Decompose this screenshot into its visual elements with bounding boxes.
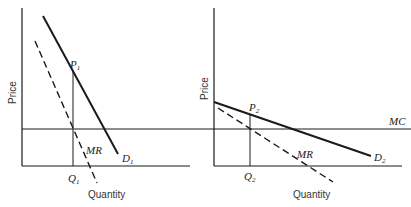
left-d-label: D1	[121, 152, 133, 166]
left-p-label: P1	[69, 58, 80, 72]
left-mr-curve	[35, 41, 97, 183]
right-mr-curve	[218, 108, 333, 182]
left-mr-label: MR	[85, 144, 102, 156]
monopoly-elasticity-diagram: P1 MR D1 Q1 Quantity Price P2 MC MR D2 Q…	[0, 0, 411, 207]
right-p-label: P2	[248, 101, 260, 115]
right-mc-label: MC	[388, 115, 406, 127]
right-panel: P2 MC MR D2 Q2 Quantity Price	[199, 8, 406, 200]
right-mr-label: MR	[296, 148, 313, 160]
left-panel: P1 MR D1 Q1 Quantity Price	[7, 8, 190, 200]
left-y-axis-label: Price	[7, 81, 18, 104]
left-q-label: Q1	[68, 172, 79, 186]
left-x-axis-label: Quantity	[88, 189, 125, 200]
right-d-label: D2	[373, 151, 386, 165]
right-y-axis-label: Price	[199, 77, 210, 100]
right-q-label: Q2	[244, 170, 256, 184]
right-x-axis-label: Quantity	[293, 189, 330, 200]
